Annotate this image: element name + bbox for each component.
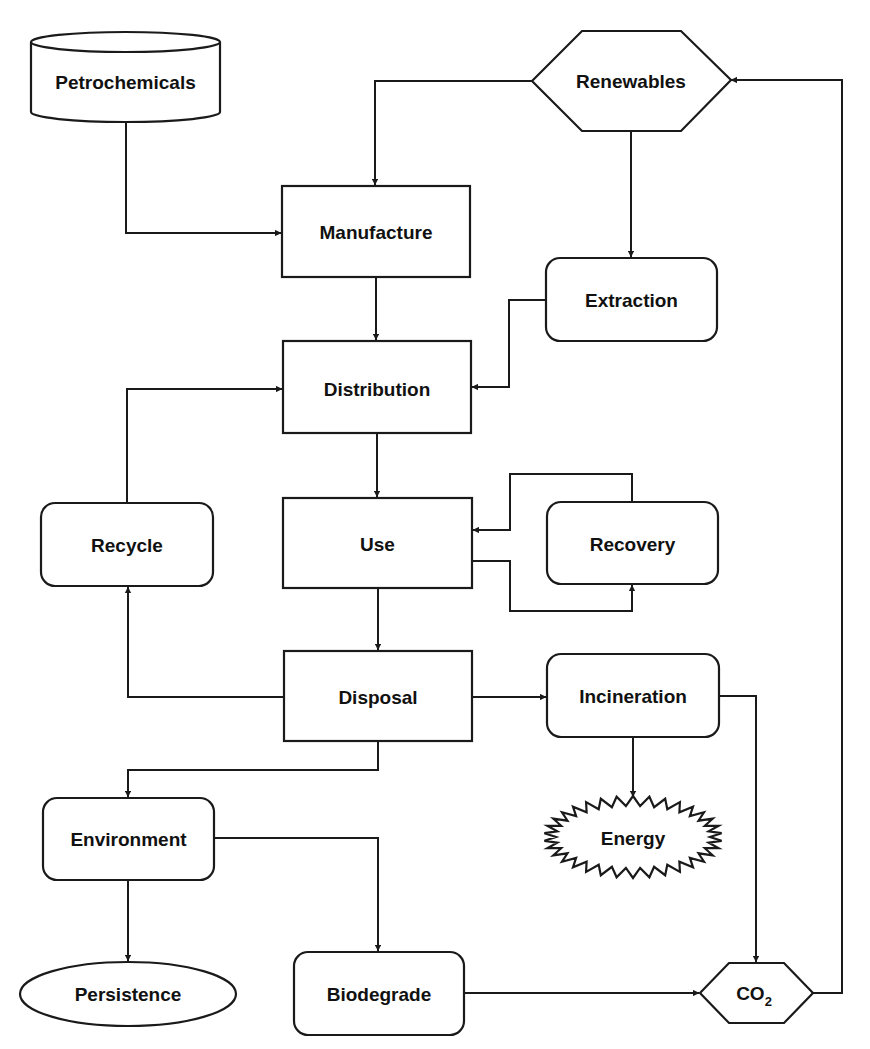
node-label: Biodegrade xyxy=(327,984,432,1005)
node-environment[interactable]: Environment xyxy=(43,798,214,880)
node-label: Extraction xyxy=(585,290,678,311)
edge-disposal-to-environment xyxy=(128,741,378,797)
edge-disposal-to-recycle xyxy=(128,587,284,697)
node-label: Renewables xyxy=(576,71,686,92)
node-recycle[interactable]: Recycle xyxy=(41,503,213,586)
lifecycle-flowchart: Petrochemicals Renewables Manufacture Ex… xyxy=(0,0,870,1049)
node-label: Disposal xyxy=(338,687,417,708)
node-manufacture[interactable]: Manufacture xyxy=(282,186,470,277)
node-distribution[interactable]: Distribution xyxy=(283,341,471,433)
edge-environment-to-biodegrade xyxy=(214,838,378,951)
node-energy[interactable]: Energy xyxy=(544,796,721,878)
node-disposal[interactable]: Disposal xyxy=(284,651,472,741)
node-incineration[interactable]: Incineration xyxy=(547,654,719,737)
co2-subscript: 2 xyxy=(765,994,772,1009)
node-extraction[interactable]: Extraction xyxy=(546,258,717,341)
node-label: Energy xyxy=(601,828,666,849)
node-petrochemicals[interactable]: Petrochemicals xyxy=(31,32,220,122)
node-label: Manufacture xyxy=(320,222,433,243)
edge-recycle-to-distribution xyxy=(127,389,282,503)
node-biodegrade[interactable]: Biodegrade xyxy=(294,952,464,1035)
edge-incineration-to-co2 xyxy=(719,696,756,962)
node-label: Petrochemicals xyxy=(55,72,195,93)
co2-main: CO xyxy=(736,983,765,1004)
node-persistence[interactable]: Persistence xyxy=(20,962,236,1026)
edges xyxy=(126,80,842,993)
node-label: Incineration xyxy=(579,686,687,707)
node-label: Persistence xyxy=(75,984,182,1005)
node-co2[interactable]: CO2 xyxy=(700,963,813,1023)
edge-renewables-to-manufacture xyxy=(375,81,532,185)
cylinder-top xyxy=(31,32,220,52)
edge-extraction-to-distribution xyxy=(472,300,546,387)
node-label: Use xyxy=(360,534,395,555)
node-label: Recycle xyxy=(91,535,163,556)
node-label: Recovery xyxy=(590,534,676,555)
edge-petrochemicals-to-manufacture xyxy=(126,122,281,233)
node-label: Environment xyxy=(70,829,187,850)
node-recovery[interactable]: Recovery xyxy=(547,502,718,584)
node-renewables[interactable]: Renewables xyxy=(532,31,731,131)
edge-co2-to-renewables xyxy=(731,80,842,993)
node-use[interactable]: Use xyxy=(283,498,472,588)
node-label: Distribution xyxy=(324,379,431,400)
